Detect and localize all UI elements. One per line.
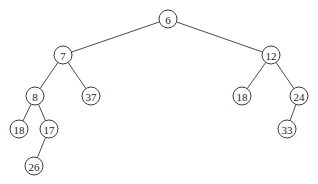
edge-7-37 bbox=[68, 62, 86, 88]
node-label: 26 bbox=[29, 161, 41, 173]
tree-node-8: 8 bbox=[26, 87, 44, 105]
tree-node-37: 37 bbox=[82, 87, 100, 105]
edge-8-17 bbox=[39, 104, 46, 120]
nodes-group: 6712837182418173326 bbox=[10, 10, 308, 175]
tree-node-6: 6 bbox=[159, 10, 177, 28]
node-label: 18 bbox=[237, 91, 249, 103]
node-label: 8 bbox=[32, 91, 38, 103]
tree-node-24: 24 bbox=[290, 87, 308, 105]
node-label: 24 bbox=[294, 91, 306, 103]
node-label: 33 bbox=[282, 124, 294, 136]
edge-6-7 bbox=[72, 22, 160, 52]
edge-24-33 bbox=[290, 104, 296, 120]
tree-node-7: 7 bbox=[54, 46, 72, 64]
node-label: 18 bbox=[14, 124, 26, 136]
tree-node-26: 26 bbox=[25, 157, 43, 175]
node-label: 12 bbox=[266, 50, 277, 62]
edge-8-18 bbox=[23, 104, 31, 121]
edges-group bbox=[23, 22, 296, 158]
tree-node-18: 18 bbox=[10, 120, 28, 138]
tree-node-33: 33 bbox=[278, 120, 296, 138]
tree-svg: 6712837182418173326 bbox=[0, 0, 318, 184]
tree-node-12: 12 bbox=[262, 46, 280, 64]
edge-17-26 bbox=[37, 137, 45, 157]
edge-6-12 bbox=[176, 22, 262, 52]
node-label: 17 bbox=[44, 124, 56, 136]
edge-12-18 bbox=[247, 62, 266, 88]
edge-7-8 bbox=[40, 62, 58, 88]
node-label: 6 bbox=[165, 14, 171, 26]
tree-node-18: 18 bbox=[233, 87, 251, 105]
node-label: 7 bbox=[60, 50, 66, 62]
tree-node-17: 17 bbox=[40, 120, 58, 138]
tree-diagram: 6712837182418173326 bbox=[0, 0, 318, 184]
node-label: 37 bbox=[86, 91, 98, 103]
edge-12-24 bbox=[276, 62, 294, 88]
